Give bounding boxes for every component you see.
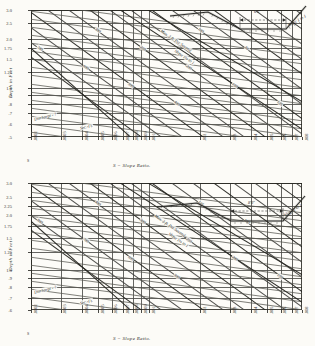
bottom-width-dimension (240, 17, 286, 28)
y-axis-tick-label: 1.75 (4, 46, 12, 51)
y-axis-tick (28, 287, 31, 288)
chart-panel-lower: 800700600500400300250200150125100 3.02.5… (0, 173, 315, 346)
y-axis-tick (28, 23, 31, 24)
x-axis-tick-label: .002 (202, 306, 207, 314)
x-axis-tick (82, 310, 83, 313)
x-axis-tick-label: .0008 (134, 304, 139, 314)
inset-bottom-width-label-upper: 6'6" (254, 9, 261, 14)
discharge-curve-label: 500 (173, 272, 181, 280)
discharge-curve-label: 800 (36, 217, 44, 225)
channel-ground-shading (170, 6, 306, 29)
y-axis-tick (28, 88, 31, 89)
y-axis-tick (28, 226, 31, 227)
y-axis-tick (28, 59, 31, 60)
x-axis-tick-label: .0006 (113, 131, 118, 141)
y-axis-tick-label: .8 (9, 101, 13, 106)
x-axis-tick-label: .0004 (84, 131, 89, 141)
x-axis-tick (123, 310, 124, 313)
x-axis-tick-label: .0002 (33, 131, 38, 141)
y-axis-tick (28, 72, 31, 73)
x-axis-tick-label: .005 (269, 306, 274, 314)
discharge-curve-label: 400 (173, 99, 181, 107)
y-axis-tick (28, 206, 31, 207)
channel-cross-section-upper: 6'6" Slope 1 to 1 (168, 2, 313, 38)
x-axis-tick-label: .0007 (125, 304, 130, 314)
x-axis-tick-label: .006 (282, 306, 287, 314)
x-axis-tick-label: .007 (294, 306, 299, 314)
discharge-curve-label: 500 (127, 81, 135, 89)
x-axis-tick-label: .0003 (62, 131, 67, 141)
y-axis-tick (28, 113, 31, 114)
y-axis-tick (28, 183, 31, 184)
y-axis-tick (28, 10, 31, 11)
x-axis-tick-label: .002 (202, 133, 207, 141)
y-axis-tick (28, 48, 31, 49)
x-axis-tick-label: .0007 (125, 131, 130, 141)
axis-corner-note-upper: S (27, 158, 29, 163)
discharge-curve-label: 125 (276, 99, 284, 107)
x-axis-tick (82, 137, 83, 140)
discharge-curve-label: 600 (127, 254, 135, 262)
x-axis-tick-label: .005 (269, 133, 274, 141)
x-axis-tick-label: .004 (253, 306, 258, 314)
x-axis-tick-label: .0009 (143, 304, 148, 314)
x-axis-tick (123, 137, 124, 140)
y-axis-tick-label: 2.5 (6, 20, 12, 25)
y-axis-tick-label: .7 (9, 111, 13, 116)
x-axis-title-lower: S = Slope Ratio. (113, 336, 151, 341)
discharge-curve-label: 400 (94, 199, 102, 207)
x-axis-tick-label: .0004 (84, 304, 89, 314)
x-axis-tick-label: .008 (304, 133, 309, 141)
y-axis-tick-label: 1.5 (6, 235, 12, 240)
x-axis-tick (200, 137, 201, 140)
y-axis-tick-label: .8 (9, 285, 13, 290)
x-axis-tick (251, 310, 252, 313)
x-axis-tick-label: .003 (232, 306, 237, 314)
discharge-curve-label: 700 (36, 44, 44, 52)
discharge-curve-label: 150 (276, 272, 284, 280)
x-axis-tick (302, 310, 303, 313)
x-axis-title-upper: S = Slope Ratio. (113, 163, 151, 168)
channel-outline (170, 6, 306, 29)
y-axis-tick-label: 3.0 (6, 181, 12, 186)
y-axis-tick-label: .5 (9, 135, 13, 140)
x-axis-tick-label: .007 (294, 133, 299, 141)
x-axis-tick-label: .004 (253, 133, 258, 141)
y-axis-tick (28, 298, 31, 299)
discharge-curve-label: 150 (230, 81, 238, 89)
channel-cross-section-lower: 8'0" Slope 2 to 1 (155, 191, 313, 229)
y-axis-tick (28, 39, 31, 40)
y-axis-tick-label: 3.0 (6, 8, 12, 13)
x-axis-tick (230, 137, 231, 140)
x-axis-tick-label: .006 (282, 133, 287, 141)
x-axis-tick (31, 137, 32, 140)
discharge-curve-label: 200 (230, 254, 238, 262)
x-axis-tick (200, 310, 201, 313)
y-axis-tick-label: 1.5 (6, 57, 12, 62)
y-axis-tick-label: 2.5 (6, 195, 12, 200)
discharge-curve-label: 250 (139, 44, 147, 52)
y-axis-tick (28, 278, 31, 279)
y-axis-tick (28, 124, 31, 125)
y-axis-tick (28, 270, 31, 271)
x-axis-tick (230, 310, 231, 313)
y-axis-tick (28, 238, 31, 239)
x-axis-tick-label: .0003 (62, 304, 67, 314)
y-axis-tick-label: .9 (9, 276, 13, 281)
y-axis-tick-label: 2.0 (6, 212, 12, 217)
x-axis-tick (302, 137, 303, 140)
y-axis-title-lower: Depth in Feet (8, 241, 13, 271)
discharge-curve-label: 700 (82, 236, 90, 244)
y-axis-tick (28, 252, 31, 253)
x-axis-tick-label: .0002 (33, 304, 38, 314)
x-axis-tick-label: .0005 (100, 131, 105, 141)
y-axis-tick (28, 104, 31, 105)
x-axis-tick-label: .0006 (113, 304, 118, 314)
y-axis-title-upper: Depth in Feet (8, 68, 13, 98)
x-axis-tick-label: .008 (304, 306, 309, 314)
x-axis-tick-label: .003 (232, 133, 237, 141)
y-axis-tick-label: .7 (9, 295, 13, 300)
x-axis-tick-label: .0005 (100, 304, 105, 314)
discharge-curve-label: 80 (243, 45, 250, 52)
y-axis-tick-label: .6 (9, 308, 13, 313)
